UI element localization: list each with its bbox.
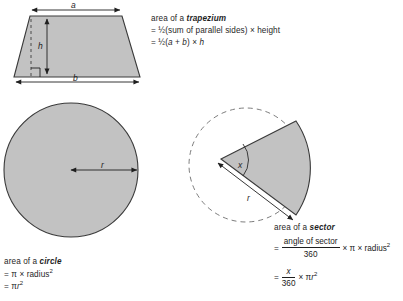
sector-eq2-numerator: x xyxy=(282,266,296,278)
sector-eq2-fraction: x 360 xyxy=(282,266,296,290)
trapezium-line2-mid: ) × xyxy=(187,38,199,47)
diagram-canvas: a b h r x r area of a trapezium = ½(sum … xyxy=(0,0,403,301)
circle-caption-line2: = πr2 xyxy=(4,281,62,293)
trapezium-title-prefix: area of a xyxy=(151,14,187,23)
sector-eq1-rest-pre: × π × radius xyxy=(343,244,387,253)
circle-line2-sup: 2 xyxy=(20,280,23,286)
circle-caption-line1: = π × radius2 xyxy=(4,269,62,281)
trapezium-caption: area of a trapezium = ½(sum of parallel … xyxy=(151,13,280,48)
sector-formula-substituted: = x 360 × πr2 xyxy=(274,266,390,290)
sector-caption-title: area of a sector xyxy=(274,222,390,234)
sector-eq2-sign: = xyxy=(274,273,279,282)
sector-formula-general: = angle of sector 360 × π × radius2 xyxy=(274,237,390,261)
sector-caption: area of a sector = angle of sector 360 ×… xyxy=(274,222,390,290)
sector-eq2-denominator: 360 xyxy=(282,278,296,290)
sector-eq2-rest-sup: 2 xyxy=(314,272,317,278)
sector-eq1-numerator: angle of sector xyxy=(282,236,340,248)
trapezium-caption-title: area of a trapezium xyxy=(151,13,280,25)
sector-title-prefix: area of a xyxy=(274,223,310,232)
sector-label-r: r xyxy=(247,193,250,203)
sector-eq2-rest: × πr2 xyxy=(298,273,317,282)
sector-eq2-rest-pre: × π xyxy=(298,273,311,282)
circle-title-prefix: area of a xyxy=(4,257,40,266)
sector-title-name: sector xyxy=(310,223,335,232)
sector-eq1-sign: = xyxy=(274,244,279,253)
trapezium-label-h: h xyxy=(38,41,43,51)
trapezium-caption-line2: = ½(a + b) × h xyxy=(151,37,280,49)
sector-eq1-rest-sup: 2 xyxy=(387,242,390,248)
circle-label-r: r xyxy=(101,160,104,170)
trapezium-label-b: b xyxy=(73,73,78,83)
circle-line2-pre: = π xyxy=(4,282,17,291)
trapezium-label-a: a xyxy=(71,0,76,10)
trapezium-title-name: trapezium xyxy=(187,14,227,23)
trapezium-line2-pre: = ½( xyxy=(151,38,168,47)
sector-eq1-denominator: 360 xyxy=(282,248,340,260)
trapezium-line2-plus: + xyxy=(173,38,183,47)
circle-line1-pre: = π × radius xyxy=(4,270,50,279)
sector-eq1-rest: × π × radius2 xyxy=(343,244,391,253)
trapezium-caption-line1: = ½(sum of parallel sides) × height xyxy=(151,25,280,37)
circle-title-name: circle xyxy=(40,257,62,266)
circle-line1-sup: 2 xyxy=(50,268,53,274)
sector-shape xyxy=(221,121,310,215)
trapezium-line2-h: h xyxy=(199,38,204,47)
sector-label-x: x xyxy=(238,160,242,170)
circle-caption-title: area of a circle xyxy=(4,256,62,268)
sector-eq1-fraction: angle of sector 360 xyxy=(282,236,340,260)
circle-caption: area of a circle = π × radius2 = πr2 xyxy=(4,256,62,291)
